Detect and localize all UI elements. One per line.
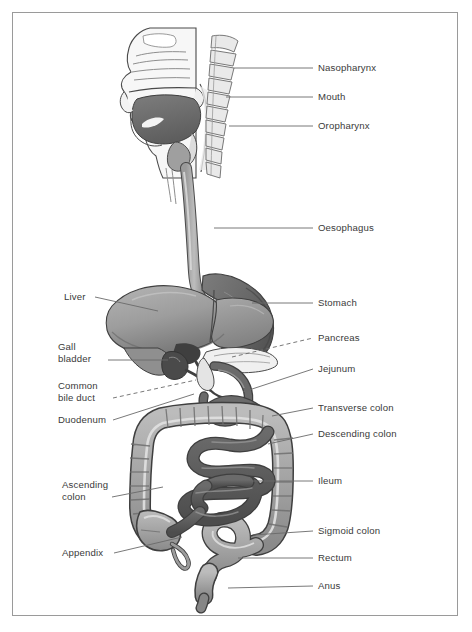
figure-frame [12, 12, 458, 616]
diagram-page: NasopharynxMouthOropharynxOesophagusStom… [0, 0, 472, 632]
